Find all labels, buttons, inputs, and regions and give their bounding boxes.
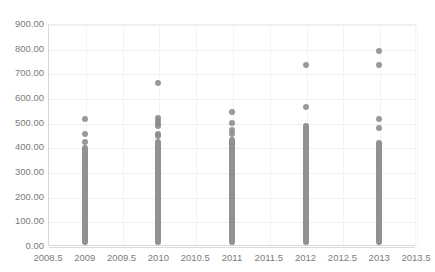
y-axis-tick-label: 100.00 xyxy=(0,216,44,226)
y-axis-tick-label: 800.00 xyxy=(0,44,44,54)
data-point xyxy=(229,131,235,137)
gridline-horizontal xyxy=(49,247,415,248)
y-axis-tick-label: 500.00 xyxy=(0,118,44,128)
gridline-vertical xyxy=(270,25,271,245)
gridline-vertical xyxy=(196,25,197,245)
y-axis-tick-label: 400.00 xyxy=(0,142,44,152)
y-axis-tick-label: 0.00 xyxy=(0,241,44,251)
dense-point-band xyxy=(303,123,309,245)
gridline-horizontal xyxy=(49,99,415,100)
data-point xyxy=(303,104,309,110)
dense-point-band xyxy=(229,137,235,244)
y-axis-tick-label: 900.00 xyxy=(0,19,44,29)
gridline-horizontal xyxy=(49,74,415,75)
gridline-horizontal xyxy=(49,25,415,26)
gridline-vertical xyxy=(343,25,344,245)
y-axis-tick-label: 300.00 xyxy=(0,167,44,177)
y-axis-tick-label: 200.00 xyxy=(0,192,44,202)
gridline-vertical xyxy=(417,25,418,245)
x-axis-tick-label: 2013.5 xyxy=(391,252,435,263)
data-point xyxy=(82,131,88,137)
dense-point-band xyxy=(82,145,88,244)
dense-point-band xyxy=(376,140,382,245)
gridline-horizontal xyxy=(49,50,415,51)
data-point xyxy=(82,116,88,122)
gridline-vertical xyxy=(123,25,124,245)
y-axis-tick-label: 700.00 xyxy=(0,68,44,78)
dense-point-band xyxy=(155,139,161,244)
y-axis-tick-label: 600.00 xyxy=(0,93,44,103)
